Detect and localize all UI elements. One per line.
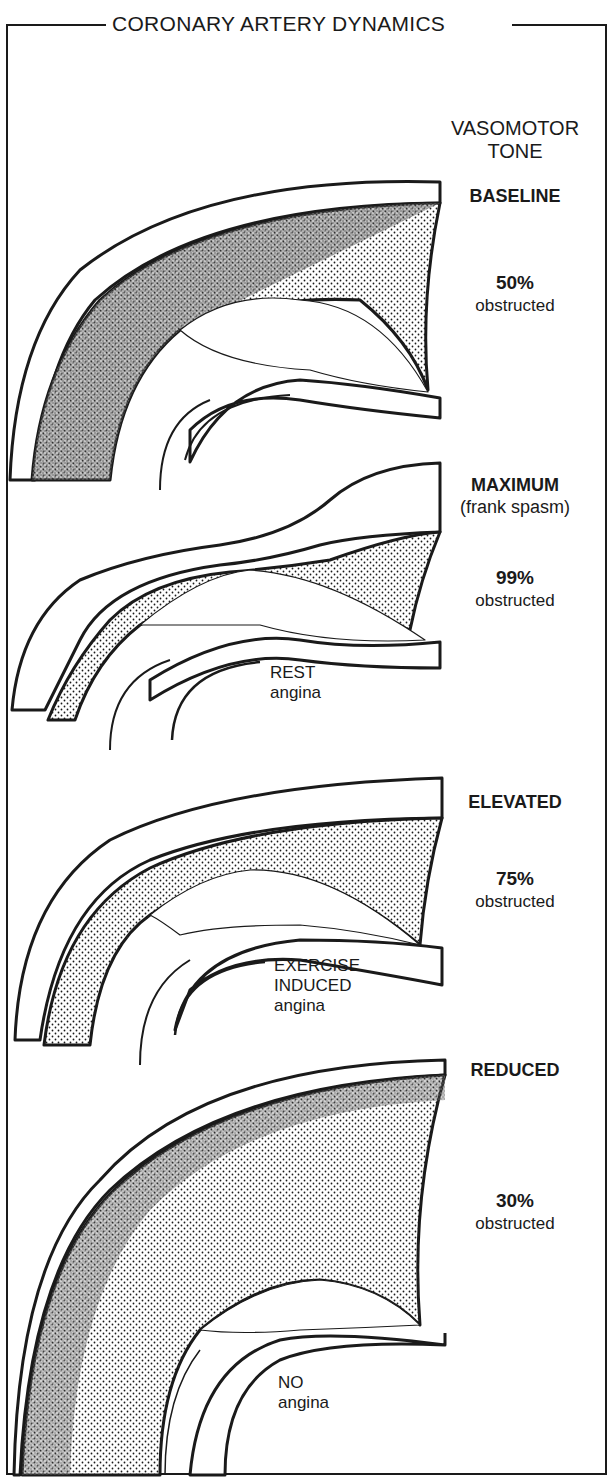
artery-elevated bbox=[15, 778, 442, 1065]
percent-baseline: 50% bbox=[440, 272, 590, 294]
tone-baseline: BASELINE bbox=[440, 186, 590, 207]
artery-maximum bbox=[12, 463, 440, 750]
angina-line: INDUCED bbox=[274, 976, 360, 996]
obstructed-baseline: obstructed bbox=[440, 296, 590, 316]
tone-elevated: ELEVATED bbox=[440, 792, 590, 813]
artery-illustrations bbox=[0, 0, 615, 1484]
percent-elevated: 75% bbox=[440, 868, 590, 890]
tone-note-maximum: (frank spasm) bbox=[440, 497, 590, 518]
obstructed-elevated: obstructed bbox=[440, 892, 590, 912]
angina-line: NO bbox=[278, 1373, 329, 1393]
tone-maximum: MAXIMUM bbox=[440, 475, 590, 496]
angina-line: REST bbox=[270, 663, 321, 683]
percent-maximum: 99% bbox=[440, 567, 590, 589]
obstructed-maximum: obstructed bbox=[440, 591, 590, 611]
angina-line: angina bbox=[270, 683, 321, 703]
angina-label-none: NO angina bbox=[278, 1373, 329, 1413]
tone-reduced: REDUCED bbox=[440, 1060, 590, 1081]
angina-label-exercise: EXERCISE INDUCED angina bbox=[274, 956, 360, 1016]
angina-line: angina bbox=[278, 1393, 329, 1413]
obstructed-reduced: obstructed bbox=[440, 1214, 590, 1234]
angina-line: angina bbox=[274, 996, 360, 1016]
percent-reduced: 30% bbox=[440, 1190, 590, 1212]
artery-baseline bbox=[10, 182, 440, 490]
angina-line: EXERCISE bbox=[274, 956, 360, 976]
angina-label-rest: REST angina bbox=[270, 663, 321, 703]
artery-reduced bbox=[14, 1060, 445, 1475]
